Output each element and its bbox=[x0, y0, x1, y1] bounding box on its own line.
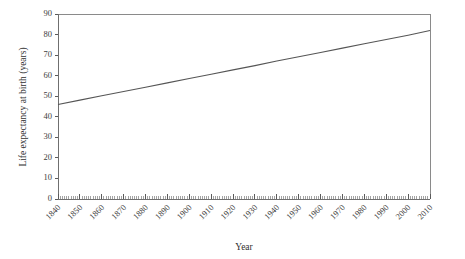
x-tick-label: 1930 bbox=[240, 202, 259, 221]
data-series-group bbox=[58, 30, 430, 104]
x-tick-label: 1910 bbox=[196, 202, 215, 221]
x-tick-label: 1970 bbox=[328, 202, 347, 221]
x-tick-label: 1990 bbox=[372, 202, 391, 221]
x-tick-label: 1940 bbox=[262, 202, 281, 221]
y-tick-label: 70 bbox=[44, 49, 53, 59]
x-tick-label: 1960 bbox=[306, 202, 325, 221]
x-tick-label: 2000 bbox=[393, 202, 412, 221]
y-tick-label: 10 bbox=[44, 172, 53, 182]
x-tick-label: 1870 bbox=[109, 202, 128, 221]
x-tick-label: 1890 bbox=[153, 202, 172, 221]
x-tick-label: 1840 bbox=[43, 202, 62, 221]
x-tick-label: 1850 bbox=[65, 202, 84, 221]
y-tick-label: 50 bbox=[44, 90, 53, 100]
x-tick-label: 1900 bbox=[175, 202, 194, 221]
y-tick-label: 90 bbox=[44, 8, 53, 18]
y-tick-label: 30 bbox=[44, 131, 53, 141]
x-tick-label: 1950 bbox=[284, 202, 303, 221]
x-tick-label-group: 1840185018601870188018901900191019201930… bbox=[43, 202, 434, 221]
x-axis-title: Year bbox=[235, 242, 253, 252]
y-tick-label: 80 bbox=[44, 29, 53, 39]
line-chart: 0102030405060708090 18401850186018701880… bbox=[0, 0, 465, 259]
data-line-life-expectancy bbox=[58, 30, 430, 104]
x-tick-label: 2010 bbox=[415, 202, 434, 221]
y-tick-label: 20 bbox=[44, 152, 53, 162]
y-tick-label-group: 0102030405060708090 bbox=[44, 8, 53, 203]
x-tick-label: 1980 bbox=[350, 202, 369, 221]
x-tick-label: 1920 bbox=[218, 202, 237, 221]
y-tick-label: 0 bbox=[48, 193, 52, 203]
x-tick-label: 1880 bbox=[131, 202, 150, 221]
chart-figure: 0102030405060708090 18401850186018701880… bbox=[0, 0, 465, 259]
y-axis-title: Life expectancy at birth (years) bbox=[18, 47, 29, 166]
y-tick-label: 60 bbox=[44, 70, 53, 80]
y-tick-label: 40 bbox=[44, 111, 53, 121]
x-tick-label: 1860 bbox=[87, 202, 106, 221]
